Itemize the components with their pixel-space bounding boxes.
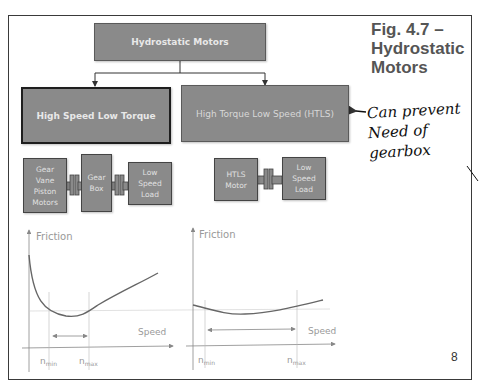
- chain-label: Gear: [87, 172, 105, 183]
- gearbox-box: Gear Box: [81, 154, 112, 212]
- htls-box: High Torque Low Speed (HTLS): [181, 85, 349, 142]
- note-line-2: Need of gearbox: [368, 117, 490, 163]
- slide-title: Fig. 4.7 – Hydrostatic Motors: [371, 20, 465, 77]
- chart-2-xlabel: Speed: [308, 326, 336, 336]
- chain-label: Load: [292, 184, 316, 195]
- sub-max: max: [293, 359, 306, 366]
- coupling-3: [257, 169, 282, 189]
- hslt-label: High Speed Low Torque: [36, 111, 155, 121]
- root-label: Hydrostatic Motors: [131, 37, 228, 47]
- htls-motor-box: HTLS Motor: [214, 158, 258, 201]
- htls-label: High Torque Low Speed (HTLS): [196, 109, 334, 119]
- chart-2-ylabel: Friction: [199, 229, 236, 240]
- sub-min: min: [46, 360, 57, 367]
- page-number: 8: [451, 350, 458, 364]
- chain-label: Gear: [32, 164, 58, 175]
- chain-label: Vane: [32, 175, 58, 186]
- chart-1-nmin: nmin: [40, 356, 57, 367]
- chain-label: HTLS: [225, 169, 247, 180]
- title-line-3: Motors: [371, 58, 465, 77]
- chain-label: Motors: [32, 197, 58, 208]
- hydrostatic-motors-box: Hydrostatic Motors: [94, 23, 266, 61]
- chain-label: Motor: [225, 180, 247, 191]
- chart-1-nmax: nmax: [79, 356, 98, 367]
- chain-label: Speed: [138, 178, 162, 189]
- title-line-1: Fig. 4.7 –: [371, 20, 465, 39]
- chart-1: [22, 230, 330, 372]
- title-line-2: Hydrostatic: [371, 39, 465, 58]
- low-speed-load-box-2: Low Speed Load: [282, 157, 326, 200]
- sub-max: max: [85, 360, 98, 367]
- chain-label: Low: [138, 167, 162, 178]
- handwritten-note: Can prevent Need of gearbox: [367, 97, 490, 163]
- chain-label: Speed: [292, 173, 316, 184]
- chart-2-nmin: nmin: [198, 355, 215, 366]
- chart-1-ylabel: Friction: [36, 231, 73, 242]
- chain-label: Load: [138, 189, 162, 200]
- chart-2: [186, 228, 335, 370]
- chain-label: Piston: [32, 186, 58, 197]
- sub-min: min: [204, 359, 215, 366]
- chart-1-xlabel: Speed: [138, 327, 166, 337]
- coupling-1: [66, 175, 82, 195]
- coupling-2: [111, 175, 128, 195]
- chain-label: Low: [292, 162, 316, 173]
- hslt-box: High Speed Low Torque: [21, 87, 171, 144]
- gear-vane-piston-motors-box: Gear Vane Piston Motors: [23, 158, 67, 213]
- chain-label: Box: [87, 183, 105, 194]
- low-speed-load-box-1: Low Speed Load: [128, 162, 172, 205]
- chart-2-nmax: nmax: [287, 355, 306, 366]
